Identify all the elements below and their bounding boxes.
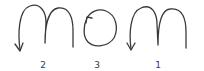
letter-m-right xyxy=(127,7,186,50)
order-label-2: 2 xyxy=(40,61,46,70)
arrow-head-icon xyxy=(86,17,92,23)
order-label-3: 3 xyxy=(94,61,100,70)
letter-o xyxy=(84,10,116,46)
order-label-1: 1 xyxy=(155,61,161,70)
stroke-order-diagram: 2 3 1 xyxy=(0,0,204,71)
letters-drawing xyxy=(0,0,204,71)
letter-m-left xyxy=(15,5,73,51)
